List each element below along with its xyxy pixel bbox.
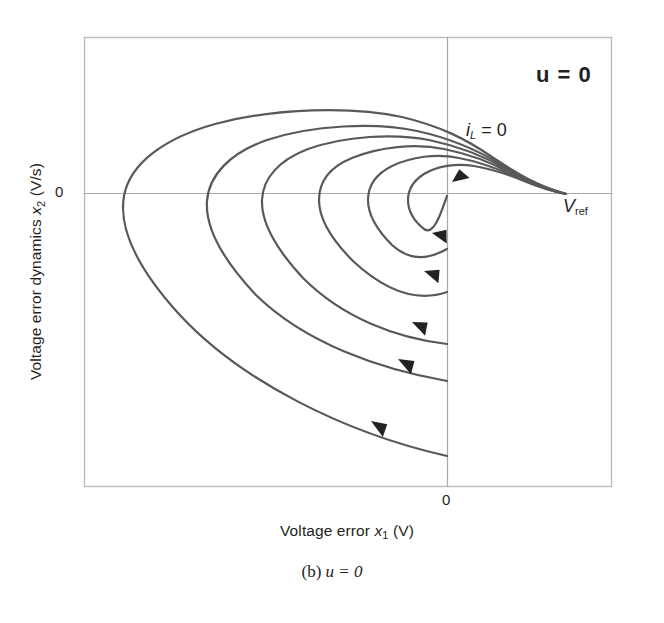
caption-math: u = 0 [326, 562, 363, 581]
trajectory-curve-3 [262, 136, 566, 344]
direction-arrow-group [367, 167, 469, 437]
caption-prefix: (b) [301, 562, 321, 581]
trajectory-group [123, 110, 566, 456]
plot-frame [85, 38, 612, 487]
figure-container: Voltage error dynamics x2 (V/s) Voltage … [0, 0, 664, 623]
nullcline-equation: = 0 [481, 120, 507, 140]
trajectory-curve-5 [368, 156, 566, 257]
equilibrium-annotation: Vref [563, 196, 588, 217]
x-axis-title-unit: (V) [393, 522, 414, 539]
direction-arrow-6 [448, 167, 469, 187]
equilibrium-subscript: ref [575, 205, 588, 217]
equilibrium-variable: V [563, 196, 575, 216]
y-axis-title: Voltage error dynamics x2 (V/s) [27, 117, 46, 427]
trajectory-curve-4 [319, 146, 566, 296]
y-axis-title-sub: 2 [35, 201, 47, 207]
x-axis-title-main: Voltage error [280, 522, 370, 539]
direction-arrow-3 [409, 316, 431, 336]
y-axis-title-var: x [27, 207, 44, 215]
x-axis-title: Voltage error x1 (V) [182, 522, 512, 541]
trajectory-curve-6 [408, 165, 566, 230]
figure-caption: (b) u = 0 [0, 562, 664, 582]
trajectory-curve-2 [207, 126, 566, 381]
nullcline-annotation: iL = 0 [466, 120, 507, 141]
x-axis-zero-tick-label: 0 [442, 491, 450, 508]
mode-label-annotation: u = 0 [536, 62, 592, 88]
direction-arrow-4 [422, 265, 444, 284]
y-axis-zero-tick-label: 0 [55, 183, 63, 200]
y-axis-title-unit: (V/s) [27, 163, 44, 196]
y-axis-title-main: Voltage error dynamics [27, 219, 44, 380]
